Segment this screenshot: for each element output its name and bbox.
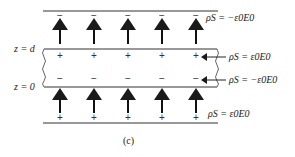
rho-slab-top-label: ρS = ε0E0 [229,52,271,62]
rho-bottom-plate-label: ρS = ε0E0 [208,109,250,119]
charge-top-plate: − [191,11,201,21]
charge-top-plate: − [89,11,99,21]
charge-slab-bottom: − [55,74,65,84]
charge-slab-top: + [123,51,133,61]
charge-bottom-plate: + [55,113,65,123]
charge-top-plate: − [123,11,133,21]
charge-slab-bottom: − [89,74,99,84]
figure-caption: (c) [123,135,134,146]
slab-left-break-edge [43,49,46,87]
upper-field-arrows [60,24,196,44]
rho-top-plate-label: ρS = −ε0E0 [206,13,254,23]
charge-bottom-plate: + [89,113,99,123]
charge-slab-bottom: − [123,74,133,84]
charge-bottom-plate: + [157,113,167,123]
lower-field-arrows [60,94,196,113]
z-equals-d-label: z = d [14,44,35,54]
charge-slab-top: + [55,51,65,61]
charge-slab-top: + [89,51,99,61]
charge-slab-top: + [191,51,201,61]
charge-top-plate: − [157,11,167,21]
charge-slab-bottom: − [157,74,167,84]
charge-slab-bottom: − [191,74,201,84]
rho-slab-bottom-label: ρS = −ε0E0 [229,75,277,85]
charge-top-plate: − [55,11,65,21]
charge-bottom-plate: + [123,113,133,123]
slab-right-break-edge [216,49,219,87]
charge-slab-top: + [157,51,167,61]
z-equals-zero-label: z = 0 [14,82,35,92]
slab-pointer-arrows [204,57,226,80]
charge-bottom-plate: + [191,113,201,123]
